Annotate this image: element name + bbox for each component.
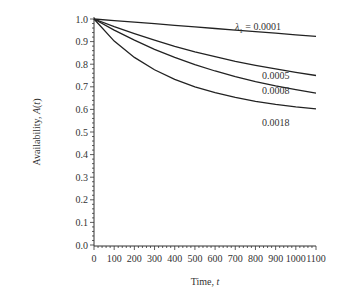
availability-chart: 0.00.10.20.30.40.50.60.70.80.91.00100200… [0,0,338,300]
curve-0.0008 [94,19,316,93]
y-tick-label: 1.0 [76,14,89,25]
y-tick-label: 0.8 [76,59,89,70]
x-tick-label: 200 [127,253,142,264]
x-tick-label: 600 [208,253,223,264]
x-tick-label: 0 [92,253,97,264]
y-tick-label: 0.9 [76,36,89,47]
x-tick-label: 400 [167,253,182,264]
x-tick-label: 100 [107,253,122,264]
y-tick-label: 0.6 [76,104,89,115]
x-axis-title: Time, t [191,276,220,287]
x-tick-label: 300 [147,253,162,264]
y-tick-label: 0.0 [76,240,89,251]
y-tick-label: 0.7 [76,81,89,92]
curve-label: 0.0018 [262,117,290,128]
y-axis-title: Availability, A(t) [31,99,43,166]
y-tick-label: 0.3 [76,172,89,183]
axes: 0.00.10.20.30.40.50.60.70.80.91.00100200… [76,14,326,265]
x-tick-label: 700 [228,253,243,264]
x-tick-label: 500 [187,253,202,264]
y-tick-label: 0.2 [76,194,89,205]
y-tick-label: 0.1 [76,217,89,228]
x-tick-label: 900 [268,253,283,264]
x-tick-label: 1100 [306,253,326,264]
x-tick-label: 800 [248,253,263,264]
y-tick-label: 0.5 [76,127,89,138]
x-tick-label: 1000 [286,253,306,264]
curve-label: 0.0008 [262,85,290,96]
curve-labels: λ1 = 0.00010.00050.00080.0018 [234,21,290,128]
y-tick-label: 0.4 [76,149,89,160]
curve-label: 0.0005 [262,70,290,81]
curve-10.0001 [94,19,316,36]
